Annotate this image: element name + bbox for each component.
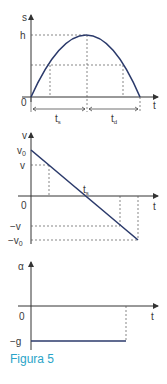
graph-acceleration-time: α 0 t −g xyxy=(10,261,158,350)
origin-label: 0 xyxy=(21,200,27,211)
velocity-line xyxy=(31,150,138,240)
minus-g-label: −g xyxy=(10,336,21,347)
v-label: v xyxy=(20,160,25,171)
kinematics-diagram: s h 0 t ts td v v0 v 0 ts t −v −v0 α 0 t… xyxy=(0,0,167,384)
t-axis-label: t xyxy=(153,100,156,111)
origin-label: 0 xyxy=(19,311,25,322)
a-axis-label: α xyxy=(18,261,24,272)
t-axis-label: t xyxy=(153,201,156,212)
v-axis-label: v xyxy=(22,130,27,141)
origin-label: 0 xyxy=(21,97,27,108)
figure-caption: Figura 5 xyxy=(10,352,54,366)
minus-v0-label: −v0 xyxy=(8,235,23,247)
s-axis-label: s xyxy=(22,12,27,23)
position-curve xyxy=(31,35,140,97)
v0-label: v0 xyxy=(17,145,26,157)
ts-label: ts xyxy=(55,113,61,125)
graph-position-time: s h 0 t ts td xyxy=(20,12,158,125)
h-label: h xyxy=(20,30,26,41)
graph-velocity-time: v v0 v 0 ts t −v −v0 xyxy=(8,130,158,247)
t-axis-label: t xyxy=(151,311,154,322)
minus-v-label: −v xyxy=(10,221,21,232)
ts-label: ts xyxy=(83,184,89,196)
td-label: td xyxy=(111,113,117,125)
